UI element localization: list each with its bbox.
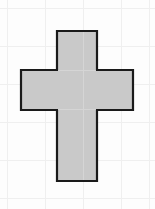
- shape-layer: [0, 0, 155, 209]
- figure-canvas: [0, 0, 155, 209]
- cross-shape: [21, 31, 133, 181]
